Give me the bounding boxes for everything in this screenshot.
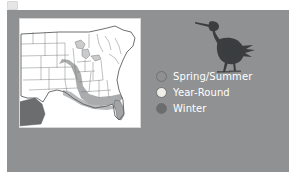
heron-beak	[195, 22, 211, 28]
legend-item-spring-summer[interactable]: Spring/Summer	[156, 69, 286, 84]
heron-body-group	[195, 21, 255, 73]
scan-artifact	[7, 1, 18, 10]
legend-item-label: Year-Round	[173, 87, 230, 99]
circle-swatch-icon	[156, 71, 167, 82]
circle-swatch-icon	[156, 87, 167, 98]
heron-tail-plumes	[240, 45, 255, 57]
legend-item-label: Winter	[173, 103, 207, 115]
legend-item-winter[interactable]: Winter	[156, 101, 286, 116]
us-range-map	[19, 18, 141, 128]
legend-item-year-round[interactable]: Year-Round	[156, 85, 286, 100]
us-range-map-svg	[19, 18, 141, 128]
circle-swatch-icon	[156, 103, 167, 114]
heron-silhouette-svg	[189, 12, 261, 74]
range-map-panel: Spring/Summer Year-Round Winter	[7, 10, 289, 172]
heron-silhouette	[189, 12, 261, 74]
legend-item-label: Spring/Summer	[173, 71, 252, 83]
legend: Spring/Summer Year-Round Winter	[156, 69, 286, 117]
figure-canvas: Spring/Summer Year-Round Winter	[0, 0, 299, 183]
